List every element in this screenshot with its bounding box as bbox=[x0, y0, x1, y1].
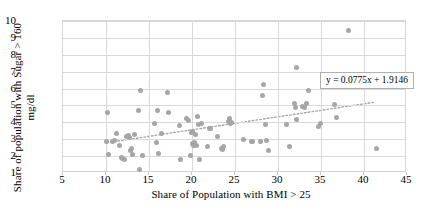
gridline-vertical bbox=[278, 21, 279, 171]
x-axis-tick-label: 10 bbox=[92, 174, 118, 185]
gridline-vertical bbox=[149, 21, 150, 171]
gridline-horizontal bbox=[63, 156, 405, 157]
x-axis-tick-mark bbox=[148, 172, 149, 175]
data-point bbox=[122, 157, 127, 162]
x-axis-tick-label: 20 bbox=[178, 174, 204, 185]
y-axis-tick-label: 7 bbox=[0, 66, 16, 77]
data-point bbox=[152, 121, 157, 126]
data-point bbox=[241, 137, 246, 142]
data-point bbox=[136, 108, 141, 113]
gridline-horizontal bbox=[63, 21, 405, 22]
x-axis-tick-mark bbox=[320, 172, 321, 175]
y-axis-tick-label: 4 bbox=[0, 116, 16, 127]
data-point bbox=[332, 102, 337, 107]
data-point bbox=[334, 115, 339, 120]
gridline-vertical bbox=[235, 21, 236, 171]
data-point bbox=[195, 114, 200, 119]
y-axis-tick-label: 8 bbox=[0, 49, 16, 60]
data-point bbox=[294, 117, 299, 122]
data-point bbox=[287, 144, 292, 149]
data-point bbox=[138, 88, 143, 93]
data-point bbox=[132, 132, 137, 137]
x-axis-tick-label: 45 bbox=[393, 174, 419, 185]
y-axis-tick-label: 6 bbox=[0, 83, 16, 94]
x-axis-tick-label: 35 bbox=[307, 174, 333, 185]
data-point bbox=[208, 126, 213, 131]
data-point bbox=[284, 122, 289, 127]
data-point bbox=[154, 140, 159, 145]
data-point bbox=[137, 167, 142, 172]
x-axis-title: Share of Population with BMI > 25 bbox=[55, 188, 407, 200]
data-point bbox=[374, 146, 379, 151]
data-point bbox=[318, 121, 323, 126]
gridline-horizontal bbox=[63, 38, 405, 39]
x-axis-tick-mark bbox=[105, 172, 106, 175]
data-point bbox=[205, 144, 210, 149]
data-point bbox=[166, 110, 171, 115]
data-point bbox=[306, 88, 311, 93]
data-point bbox=[266, 148, 271, 153]
data-point bbox=[194, 143, 199, 148]
x-axis-tick-mark bbox=[363, 172, 364, 175]
data-point bbox=[129, 146, 134, 151]
data-point bbox=[165, 90, 170, 95]
gridline-horizontal bbox=[63, 105, 405, 106]
y-axis-tick-label: 2 bbox=[0, 150, 16, 161]
y-axis-tick-label: 1 bbox=[0, 167, 16, 178]
data-point bbox=[293, 105, 298, 110]
data-point bbox=[188, 153, 193, 158]
data-point bbox=[178, 157, 183, 162]
data-point bbox=[155, 108, 160, 113]
data-point bbox=[229, 120, 234, 125]
gridline-vertical bbox=[364, 21, 365, 171]
data-point bbox=[117, 143, 122, 148]
data-point bbox=[199, 121, 204, 126]
data-point bbox=[140, 153, 145, 158]
y-axis-tick-label: 5 bbox=[0, 99, 16, 110]
x-axis-tick-mark bbox=[406, 172, 407, 175]
trendline-equation-label: y = 0.0775x + 1.9146 bbox=[320, 72, 414, 89]
data-point bbox=[197, 157, 202, 162]
data-point bbox=[104, 139, 109, 144]
data-point bbox=[112, 138, 117, 143]
data-point bbox=[114, 131, 119, 136]
gridline-vertical bbox=[192, 21, 193, 171]
data-point bbox=[258, 139, 263, 144]
x-axis-tick-label: 5 bbox=[49, 174, 75, 185]
data-point bbox=[264, 138, 269, 143]
x-axis-tick-mark bbox=[191, 172, 192, 175]
y-axis-tick-label: 9 bbox=[0, 32, 16, 43]
x-axis-tick-mark bbox=[234, 172, 235, 175]
x-axis-tick-mark bbox=[277, 172, 278, 175]
plot-area bbox=[62, 20, 406, 172]
gridline-vertical bbox=[106, 21, 107, 171]
data-point bbox=[261, 82, 266, 87]
data-point bbox=[193, 132, 198, 137]
data-point bbox=[263, 122, 268, 127]
data-point bbox=[177, 123, 182, 128]
x-axis-tick-label: 15 bbox=[135, 174, 161, 185]
x-axis-tick-label: 40 bbox=[350, 174, 376, 185]
gridline-horizontal bbox=[63, 55, 405, 56]
x-axis-tick-mark bbox=[62, 172, 63, 175]
y-axis-tick-label: 10 bbox=[0, 15, 16, 26]
data-point bbox=[159, 131, 164, 136]
data-point bbox=[260, 93, 265, 98]
gridline-vertical bbox=[321, 21, 322, 171]
x-axis-tick-label: 25 bbox=[221, 174, 247, 185]
data-point bbox=[250, 139, 255, 144]
scatter-chart: Share of population with Sugar > 160 mg/… bbox=[0, 0, 425, 215]
trendline bbox=[63, 21, 405, 171]
x-axis-tick-label: 30 bbox=[264, 174, 290, 185]
data-point bbox=[221, 144, 226, 149]
data-point bbox=[346, 28, 351, 33]
data-point bbox=[294, 65, 299, 70]
data-point bbox=[105, 110, 110, 115]
y-axis-tick-label: 3 bbox=[0, 133, 16, 144]
data-point bbox=[127, 135, 132, 140]
data-point bbox=[186, 118, 191, 123]
